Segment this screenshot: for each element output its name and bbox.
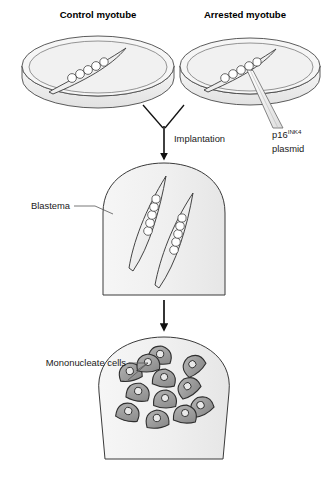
plasmid-label-base: p16 bbox=[272, 129, 288, 140]
arrow-branch-left bbox=[143, 105, 163, 128]
cell-nucleus bbox=[161, 394, 169, 402]
label-blastema: Blastema bbox=[31, 200, 71, 211]
cell-nucleus bbox=[153, 414, 161, 422]
arrested-petri-dish bbox=[180, 38, 320, 128]
myotube-nucleus bbox=[76, 70, 85, 79]
arrow-branch-right bbox=[165, 105, 184, 128]
myotube-nucleus bbox=[176, 222, 185, 231]
heading-control-myotube: Control myotube bbox=[60, 9, 137, 20]
plasmid-label-line2: plasmid bbox=[272, 143, 304, 154]
blastema-with-myotubes bbox=[103, 163, 225, 295]
plasmid-label-line1: p16INK4 bbox=[272, 128, 302, 140]
myotube-nucleus bbox=[245, 62, 254, 71]
plasmid-label-superscript: INK4 bbox=[288, 128, 302, 135]
myotube-implantation-diagram: Control myotube Arrested myotube bbox=[0, 0, 325, 479]
myotube-nucleus bbox=[253, 58, 261, 66]
label-implantation: Implantation bbox=[174, 133, 225, 144]
cell-nucleus bbox=[160, 373, 168, 381]
blastema-with-mononucleate-cells bbox=[99, 337, 230, 459]
cell-nucleus bbox=[156, 350, 164, 358]
label-mononucleate-cells: Mononucleate cells bbox=[46, 357, 127, 368]
implantation-arrow bbox=[143, 105, 184, 159]
myotube-nucleus bbox=[221, 74, 230, 83]
myotube-nucleus bbox=[92, 62, 101, 71]
myotube-nucleus bbox=[100, 58, 108, 66]
myotube-nucleus bbox=[170, 246, 179, 255]
myotube-nucleus bbox=[148, 211, 157, 220]
plasmid-label: p16INK4 plasmid bbox=[272, 128, 304, 154]
control-petri-dish bbox=[22, 36, 174, 108]
myotube-nucleus bbox=[237, 66, 246, 75]
myotube-nucleus bbox=[174, 230, 183, 239]
figure-root: Control myotube Arrested myotube bbox=[0, 0, 325, 479]
myotube-nucleus bbox=[229, 70, 238, 79]
myotube-nucleus bbox=[150, 203, 159, 212]
myotube-nucleus bbox=[68, 74, 77, 83]
myotube-nucleus bbox=[144, 227, 153, 236]
myotube-nucleus bbox=[146, 219, 155, 228]
myotube-nucleus bbox=[178, 214, 186, 222]
myotube-nucleus bbox=[84, 66, 93, 75]
cell-nucleus bbox=[181, 409, 189, 417]
heading-arrested-myotube: Arrested myotube bbox=[204, 9, 286, 20]
myotube-nucleus bbox=[172, 238, 181, 247]
myotube-nucleus bbox=[152, 195, 160, 203]
